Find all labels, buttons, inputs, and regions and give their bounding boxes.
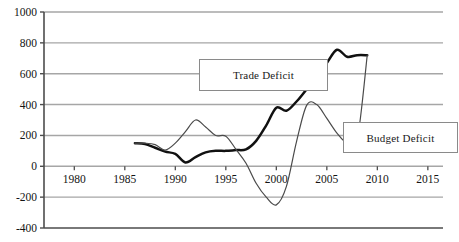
svg-text:1980: 1980 [63, 173, 86, 185]
svg-text:1000: 1000 [14, 6, 37, 18]
gridlines [44, 12, 443, 197]
axes [44, 12, 443, 228]
svg-text:1990: 1990 [164, 173, 187, 185]
svg-text:400: 400 [20, 99, 38, 111]
chart-container: -400-20002004006008001000 19801985199019… [0, 0, 459, 242]
svg-text:1985: 1985 [113, 173, 136, 185]
svg-text:2000: 2000 [265, 173, 288, 185]
y-axis-tick-labels: -400-20002004006008001000 [14, 6, 37, 234]
annotation-budget-deficit: Budget Deficit [343, 122, 458, 153]
svg-text:2015: 2015 [416, 173, 439, 185]
svg-text:0: 0 [31, 160, 37, 172]
svg-text:200: 200 [20, 129, 38, 141]
svg-text:2005: 2005 [315, 173, 338, 185]
annotation-budget-deficit-label: Budget Deficit [367, 132, 435, 144]
annotation-trade-deficit: Trade Deficit [199, 59, 328, 91]
svg-text:-200: -200 [16, 191, 37, 203]
svg-text:800: 800 [20, 37, 38, 49]
annotation-trade-deficit-label: Trade Deficit [233, 69, 294, 81]
svg-text:-400: -400 [16, 222, 37, 234]
svg-text:2010: 2010 [366, 173, 389, 185]
x-axis-tick-labels: 19801985199019952000200520102015 [63, 173, 440, 185]
svg-text:1995: 1995 [214, 173, 237, 185]
svg-text:600: 600 [20, 68, 38, 80]
chart-plot-area: -400-20002004006008001000 19801985199019… [0, 0, 459, 242]
